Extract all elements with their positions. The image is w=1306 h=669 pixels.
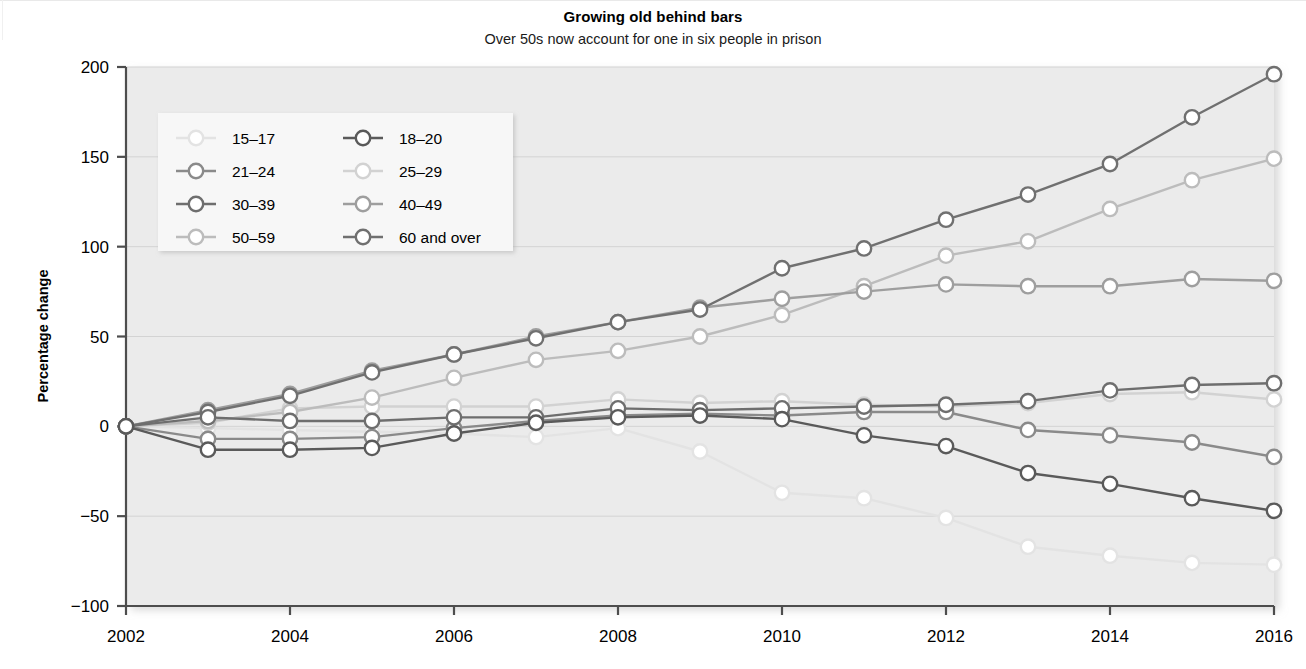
data-point [529,430,543,444]
data-point [693,329,707,343]
data-point [1185,173,1199,187]
data-point [1185,272,1199,286]
data-point [1267,151,1281,165]
data-point [693,408,707,422]
chart-legend: 15–1718–2021–2425–2930–3940–4950–5960 an… [158,113,513,251]
data-point [1103,548,1117,562]
legend-label: 40–49 [399,196,442,213]
y-tick-label: 100 [81,238,109,257]
data-point [283,442,297,456]
data-point [1103,428,1117,442]
y-tick-labels: 200150100500−50−100 [71,58,109,616]
data-point [611,315,625,329]
y-tick-label: −50 [80,507,109,526]
data-point [1185,556,1199,570]
data-point [857,491,871,505]
data-point [1267,504,1281,518]
y-tick-label: 0 [100,417,109,436]
data-point [201,442,215,456]
data-point [447,347,461,361]
data-point [1267,450,1281,464]
data-point [939,439,953,453]
data-point [1103,202,1117,216]
data-point [1185,378,1199,392]
data-point [1185,435,1199,449]
data-point [365,390,379,404]
legend-swatch-marker [356,164,370,178]
data-point [529,416,543,430]
data-point [529,353,543,367]
data-point [1185,110,1199,124]
data-point [365,441,379,455]
data-point [365,365,379,379]
data-point [447,410,461,424]
legend-label: 15–17 [232,130,275,147]
top-divider [0,0,1306,1]
data-point [447,426,461,440]
x-tick-label: 2002 [107,627,145,646]
data-point [939,398,953,412]
y-tick-label: 50 [90,328,109,347]
data-point [1267,557,1281,571]
legend-swatch-marker [189,164,203,178]
legend-swatch-marker [356,131,370,145]
data-point [775,292,789,306]
legend-swatch-marker [356,197,370,211]
data-point [1267,392,1281,406]
legend-swatch-marker [189,230,203,244]
data-point [1021,279,1035,293]
data-point [1267,376,1281,390]
data-point [1267,67,1281,81]
legend-label: 30–39 [232,196,275,213]
data-point [1021,466,1035,480]
y-axis-title: Percentage change [35,270,51,403]
data-point [1267,274,1281,288]
left-divider [2,0,3,40]
data-point [857,241,871,255]
y-tick-label: 200 [81,58,109,77]
data-point [1021,187,1035,201]
data-point [693,302,707,316]
data-point [1021,540,1035,554]
legend-item-60-and-over[interactable]: 60 and over [343,229,481,246]
data-point [857,284,871,298]
data-point [775,486,789,500]
data-point [119,419,133,433]
y-tick-label: −100 [71,597,109,616]
x-tick-label: 2008 [599,627,637,646]
legend-label: 50–59 [232,229,275,246]
data-point [1103,157,1117,171]
data-point [1103,383,1117,397]
x-tick-label: 2010 [763,627,801,646]
data-point [447,371,461,385]
data-point [1021,234,1035,248]
chart-canvas: 200150100500−50−100 20022004200620082010… [0,0,1306,669]
x-tick-labels: 20022004200620082010201220142016 [107,627,1293,646]
data-point [283,414,297,428]
data-point [857,428,871,442]
data-point [693,444,707,458]
x-tick-label: 2006 [435,627,473,646]
data-point [611,410,625,424]
x-tick-label: 2016 [1255,627,1293,646]
data-point [939,213,953,227]
data-point [1021,423,1035,437]
data-point [611,344,625,358]
legend-swatch-marker [356,230,370,244]
legend-swatch-marker [189,197,203,211]
x-tick-label: 2012 [927,627,965,646]
legend-swatch-marker [189,131,203,145]
data-point [529,331,543,345]
data-point [1021,394,1035,408]
data-point [775,261,789,275]
legend-label: 25–29 [399,163,442,180]
y-tick-label: 150 [81,148,109,167]
legend-label: 18–20 [399,130,442,147]
data-point [857,399,871,413]
x-tick-label: 2014 [1091,627,1129,646]
data-point [775,308,789,322]
data-point [1185,491,1199,505]
data-point [283,389,297,403]
data-point [365,414,379,428]
data-point [775,412,789,426]
